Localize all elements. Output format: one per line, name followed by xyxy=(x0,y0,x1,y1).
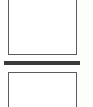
scanned-page xyxy=(0,0,93,107)
lower-frame xyxy=(8,72,77,107)
upper-frame xyxy=(8,0,77,55)
paper-margin xyxy=(80,0,93,107)
divider-rule xyxy=(4,61,80,65)
